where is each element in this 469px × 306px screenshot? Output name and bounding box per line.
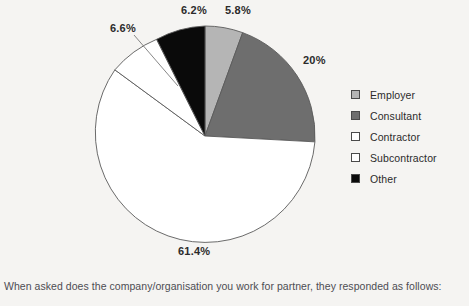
legend-label-employer: Employer: [370, 89, 415, 101]
chart-legend: Employer Consultant Contractor Subcontra…: [351, 84, 463, 189]
legend-swatch-other: [351, 174, 360, 183]
legend-label-subcontractor: Subcontractor: [370, 152, 437, 164]
legend-swatch-contractor: [351, 132, 360, 141]
legend-label-other: Other: [370, 173, 397, 185]
legend-swatch-subcontractor: [351, 153, 360, 162]
legend-swatch-consultant: [351, 111, 360, 120]
slice-label-subcontractor: 6.6%: [110, 22, 136, 34]
slice-label-consultant: 20%: [303, 54, 326, 66]
pie-chart-figure: 6.2% 5.8% 6.6% 20% 61.4% Employer Consul…: [0, 0, 469, 306]
legend-item-subcontractor[interactable]: Subcontractor: [351, 147, 463, 168]
slice-label-employer: 5.8%: [225, 4, 251, 16]
slice-label-other: 6.2%: [181, 4, 207, 16]
legend-label-contractor: Contractor: [370, 131, 420, 143]
legend-item-consultant[interactable]: Consultant: [351, 105, 463, 126]
legend-item-contractor[interactable]: Contractor: [351, 126, 463, 147]
legend-label-consultant: Consultant: [370, 110, 421, 122]
legend-swatch-employer: [351, 90, 360, 99]
legend-item-other[interactable]: Other: [351, 168, 463, 189]
legend-item-employer[interactable]: Employer: [351, 84, 463, 105]
slice-label-contractor: 61.4%: [178, 245, 210, 257]
figure-caption: When asked does the company/organisation…: [4, 280, 442, 292]
